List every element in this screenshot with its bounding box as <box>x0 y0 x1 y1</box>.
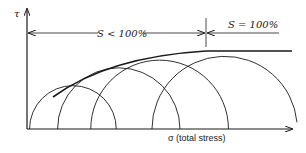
partial-saturation-label: S < 100% <box>97 28 147 39</box>
mohr-circle-2 <box>58 68 180 129</box>
y-axis-label: τ <box>14 8 20 19</box>
mohr-diagram: τ σ (total stress) S < 100% S = 100% <box>0 0 306 153</box>
failure-envelope <box>53 51 292 97</box>
full-saturation-label: S = 100% <box>228 19 278 30</box>
mohr-circle-1 <box>30 86 117 129</box>
x-axis-label: σ (total stress) <box>168 133 226 143</box>
mohr-circle-4 <box>152 56 297 129</box>
mohr-circles <box>30 56 297 129</box>
mohr-circle-3 <box>91 60 229 129</box>
